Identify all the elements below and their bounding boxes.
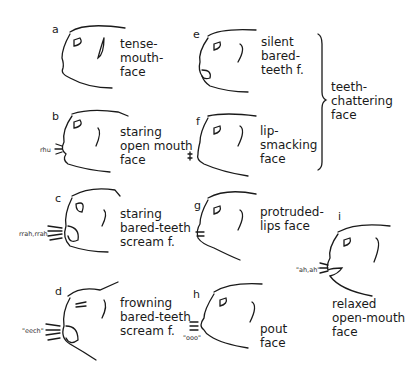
face-b-drawing: [55, 110, 128, 172]
panel-letter-b: b: [52, 111, 59, 123]
panel-label-e: silent bared- teeth f.: [261, 35, 304, 77]
panel-letter-g: g: [194, 200, 201, 212]
panel-label-b: staring open mouth face: [120, 125, 193, 167]
panel-label-c: staring bared-teeth scream f.: [120, 207, 191, 249]
face-a-drawing: [62, 26, 125, 88]
panel-label-h: pout face: [260, 322, 287, 350]
group-bracket: [318, 34, 326, 170]
panel-letter-c: c: [55, 193, 61, 205]
panel-label-a: tense- mouth- face: [120, 37, 163, 79]
panel-label-f: lip- smacking face: [260, 124, 317, 166]
sound-label-i: "ah,ah": [296, 266, 320, 274]
sound-label-b: rhu: [40, 146, 51, 154]
panel-letter-i: i: [338, 211, 341, 223]
sound-label-c: rrah,rrah: [19, 230, 48, 238]
panel-letter-d: d: [55, 286, 62, 298]
bracket-label-teeth-chattering: teeth- chattering face: [331, 80, 393, 122]
panel-letter-a: a: [52, 24, 59, 36]
panel-label-g: protruded- lips face: [260, 205, 324, 233]
sound-label-h: "ooo": [183, 334, 201, 342]
face-e-drawing: [199, 30, 256, 92]
panel-label-i: relaxed open-mouth face: [332, 297, 405, 339]
face-g-drawing: [196, 192, 256, 260]
panel-letter-f: f: [196, 116, 200, 128]
face-i-drawing: [320, 225, 390, 296]
sound-label-d: "eech": [22, 327, 44, 335]
panel-letter-h: h: [193, 289, 200, 301]
panel-label-d: frowning bared-teeth scream f.: [120, 296, 191, 338]
panel-letter-e: e: [193, 29, 200, 41]
